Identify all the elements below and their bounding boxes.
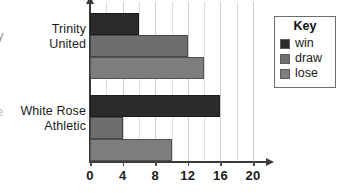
legend-label-draw: draw bbox=[295, 52, 322, 65]
x-tick-label-20: 20 bbox=[246, 168, 261, 183]
bar-lose-trinity-united bbox=[90, 57, 204, 79]
legend-label-win: win bbox=[295, 37, 314, 50]
legend-swatch-lose bbox=[280, 69, 290, 79]
x-tick-20 bbox=[253, 161, 255, 166]
category-label-white-rose-athletic: White Rose Athletic bbox=[0, 104, 86, 133]
legend-title: Key bbox=[275, 19, 335, 33]
y-axis-arrow-icon bbox=[86, 0, 94, 4]
legend-item-draw: draw bbox=[280, 51, 322, 66]
x-axis-arrow-icon bbox=[266, 158, 274, 166]
legend-item-lose: lose bbox=[280, 66, 318, 81]
bar-chart: y e Trinity United White Rose Athletic 0… bbox=[0, 0, 342, 193]
legend-label-lose: lose bbox=[295, 67, 318, 80]
cut-off-glyph-top: y bbox=[0, 28, 7, 43]
legend-item-win: win bbox=[280, 36, 314, 51]
x-tick-label-0: 0 bbox=[86, 168, 93, 183]
bar-lose-white-rose-athletic bbox=[90, 139, 172, 161]
bar-win-white-rose-athletic bbox=[90, 95, 220, 117]
x-tick-label-16: 16 bbox=[213, 168, 228, 183]
legend-swatch-draw bbox=[280, 54, 290, 64]
category-label-trinity-united: Trinity United bbox=[8, 22, 86, 51]
legend-swatch-win bbox=[280, 39, 290, 49]
plot-area bbox=[90, 6, 253, 162]
bar-win-trinity-united bbox=[90, 13, 139, 35]
x-tick-label-8: 8 bbox=[151, 168, 158, 183]
x-tick-label-12: 12 bbox=[180, 168, 195, 183]
legend-key-box: Key win draw lose bbox=[274, 16, 336, 88]
category-label-line: White Rose bbox=[0, 104, 86, 119]
bar-draw-white-rose-athletic bbox=[90, 117, 123, 139]
category-label-line: Trinity bbox=[8, 22, 86, 37]
bar-draw-trinity-united bbox=[90, 35, 188, 57]
category-label-line: Athletic bbox=[0, 119, 86, 134]
category-label-line: United bbox=[8, 37, 86, 52]
gridline-20 bbox=[253, 2, 254, 161]
x-tick-label-4: 4 bbox=[119, 168, 126, 183]
